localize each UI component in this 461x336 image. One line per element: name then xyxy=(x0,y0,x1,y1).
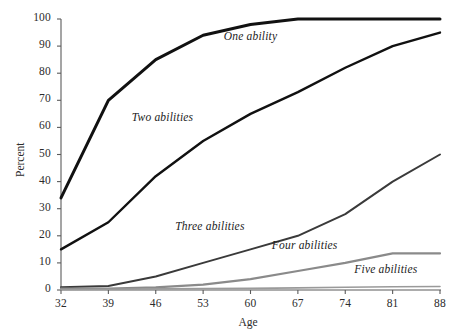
y-tick-label: 20 xyxy=(21,228,51,240)
series-label-three-abilities: Three abilities xyxy=(175,220,244,232)
series-line-one-ability xyxy=(61,19,440,198)
x-tick-label: 74 xyxy=(330,297,360,309)
x-tick-label: 39 xyxy=(93,297,123,309)
y-tick-label: 70 xyxy=(21,92,51,104)
y-tick-label: 0 xyxy=(21,282,51,294)
x-tick-label: 88 xyxy=(425,297,455,309)
x-tick-label: 32 xyxy=(46,297,76,309)
y-tick-label: 60 xyxy=(21,119,51,131)
x-tick-label: 81 xyxy=(378,297,408,309)
y-tick-label: 30 xyxy=(21,201,51,213)
y-tick-label: 100 xyxy=(21,11,51,23)
series-label-one-ability: One ability xyxy=(224,30,278,42)
series-label-five-abilities: Five abilities xyxy=(354,263,417,275)
x-tick-label: 46 xyxy=(141,297,171,309)
y-tick-label: 90 xyxy=(21,38,51,50)
chart-plot-area xyxy=(0,0,461,336)
x-tick-label: 60 xyxy=(236,297,266,309)
chart-container: 0102030405060708090100 32394653606774818… xyxy=(0,0,461,336)
series-label-four-abilities: Four abilities xyxy=(272,239,338,251)
series-label-two-abilities: Two abilities xyxy=(132,111,194,123)
x-tick-label: 53 xyxy=(188,297,218,309)
x-tick-label: 67 xyxy=(283,297,313,309)
y-axis-title: Percent xyxy=(14,142,26,176)
x-axis-title: Age xyxy=(239,316,258,328)
y-tick-label: 80 xyxy=(21,65,51,77)
y-tick-label: 10 xyxy=(21,255,51,267)
series-line-two-abilities xyxy=(61,33,440,250)
